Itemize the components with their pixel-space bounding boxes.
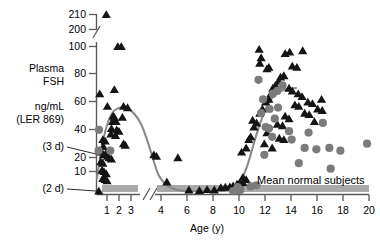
x-tick-label-12: 12 [259,204,271,216]
data-point-circle [278,81,286,89]
y-axis-title-line-2: FSH [43,75,64,87]
data-point-circle [325,144,333,152]
data-point-circle [106,147,114,155]
y-tick-label-210: 210 [68,8,86,20]
y-tick-label-40: 40 [74,123,86,135]
data-point-circle [363,140,371,148]
data-point-triangle [173,153,182,161]
x-axis: 1 2 3 4 6 8 10 12 14 16 18 20 Age (y) [97,188,375,234]
x-tick-label-4: 4 [158,204,164,216]
data-point-circle [295,159,303,167]
annotation-3d-label: (3 d) [42,140,64,152]
data-point-circle [265,124,273,132]
legend: Mean normal subjects [257,174,365,186]
x-tick-label-6: 6 [184,204,190,216]
data-point-circle [319,119,327,127]
data-point-circle [234,183,242,191]
data-point-circle [274,104,282,112]
data-point-triangle [248,116,257,124]
annotation-3d: (3 d) [42,140,96,154]
x-tick-label-3: 3 [128,204,134,216]
x-tick-label-1: 1 [104,204,110,216]
y-axis-title-line-1: Plasma [29,62,64,74]
data-point-triangle [310,117,319,125]
y-axis-title: Plasma FSH ng/mL (LER 869) [16,62,64,125]
data-point-circle [257,109,265,117]
normal-bar-infancy [102,185,138,192]
y-tick-label-100: 100 [68,40,86,52]
x-axis-break-mark-left [143,188,150,200]
data-point-circle [94,147,102,155]
x-tick-label-2: 2 [116,204,122,216]
data-point-triangle [110,85,119,93]
fsh-scatter-chart: 210 200 100 80 60 40 20 10 Plasma FSH ng… [0,0,380,245]
x-tick-label-20: 20 [363,204,375,216]
data-point-circle [285,127,293,135]
data-point-triangle [268,144,277,152]
data-point-circle [95,126,103,134]
legend-label-mean-normal-subjects: Mean normal subjects [257,174,365,186]
annotation-2d: (2 d) [42,182,96,194]
data-point-triangle [255,45,264,53]
data-point-circle [268,133,276,141]
data-point-triangle [246,132,255,140]
data-point-circle [288,135,296,143]
data-point-circle [254,76,262,84]
data-markers-layer [94,10,371,195]
data-point-circle [271,115,279,123]
y-axis-title-line-3: ng/mL [35,100,64,112]
data-point-circle [259,95,267,103]
data-point-triangle [317,95,326,103]
data-point-circle [301,144,309,152]
annotation-2d-label: (2 d) [42,182,64,194]
data-point-circle [336,147,344,155]
data-point-triangle [118,113,127,121]
data-point-circle [327,165,335,173]
data-point-triangle [298,46,307,54]
x-tick-label-16: 16 [311,204,323,216]
data-point-circle [304,129,312,137]
data-point-triangle [260,139,269,147]
x-tick-label-8: 8 [210,204,216,216]
data-point-triangle [103,102,112,110]
y-tick-label-10: 10 [74,165,86,177]
x-axis-title: Age (y) [190,222,224,234]
x-tick-label-10: 10 [233,204,245,216]
data-point-triangle [257,53,266,61]
y-tick-label-60: 60 [74,95,86,107]
y-tick-label-80: 80 [74,67,86,79]
y-tick-label-20: 20 [74,151,86,163]
x-tick-label-14: 14 [285,204,297,216]
data-point-circle [312,145,320,153]
annotation-2d-leader-line [67,189,96,191]
chart-root: 210 200 100 80 60 40 20 10 Plasma FSH ng… [0,0,380,245]
y-tick-label-200: 200 [68,23,86,35]
y-axis: 210 200 100 80 60 40 20 10 [68,8,100,194]
data-point-circle [265,105,273,113]
x-tick-label-18: 18 [337,204,349,216]
data-point-triangle [102,10,111,18]
series-triangles [94,10,327,194]
y-axis-title-line-4: (LER 869) [16,113,64,125]
data-point-circle [260,151,268,159]
data-point-triangle [242,144,251,152]
